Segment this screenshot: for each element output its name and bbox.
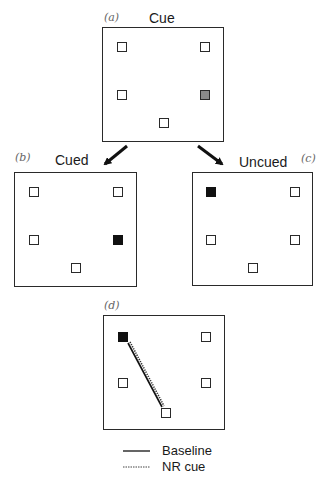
target-square-top-left	[118, 332, 128, 342]
placeholder-square-bottom-center	[159, 118, 169, 128]
placeholder-square-bottom-center	[248, 263, 258, 273]
panel-d-trajectory	[103, 315, 225, 430]
placeholder-square-middle-left	[206, 235, 216, 245]
panel-b-letter: (b)	[15, 151, 31, 164]
panel-c-uncued	[192, 172, 313, 286]
placeholder-square-middle-left	[118, 378, 128, 388]
placeholder-square-top-right	[113, 187, 123, 197]
placeholder-square-top-right	[201, 332, 211, 342]
panel-b-cued	[14, 172, 137, 287]
panel-c-letter: (c)	[301, 152, 316, 165]
arrow-cue-to-cued	[105, 146, 127, 164]
placeholder-square-top-left	[117, 42, 127, 52]
panel-a-cue	[102, 27, 224, 142]
start-square-bottom-center	[161, 408, 171, 418]
placeholder-square-middle-left	[29, 235, 39, 245]
panel-a-title: Cue	[149, 11, 175, 25]
placeholder-square-top-right	[290, 187, 300, 197]
placeholder-square-middle-right	[201, 378, 211, 388]
placeholder-square-middle-left	[117, 90, 127, 100]
placeholder-square-top-left	[29, 187, 39, 197]
target-square-top-left	[206, 187, 216, 197]
panel-a-letter: (a)	[104, 11, 119, 24]
placeholder-square-middle-right	[290, 235, 300, 245]
legend-baseline-label: Baseline	[162, 444, 212, 457]
placeholder-square-bottom-center	[71, 263, 81, 273]
cue-square-middle-right	[200, 90, 210, 100]
legend-nr-cue-label: NR cue	[162, 460, 205, 473]
target-square-middle-right	[113, 235, 123, 245]
panel-d-letter: (d)	[104, 299, 120, 312]
panel-c-title: Uncued	[239, 155, 287, 169]
arrow-cue-to-uncued	[198, 146, 222, 164]
panel-b-title: Cued	[55, 153, 88, 167]
placeholder-square-top-right	[200, 42, 210, 52]
